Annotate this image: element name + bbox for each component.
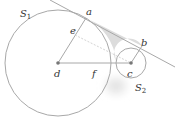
label-s1: S1	[20, 8, 31, 21]
label-s2: S2	[135, 82, 146, 95]
label-f: f	[91, 68, 98, 79]
label-b: b	[141, 37, 147, 48]
tangent-line	[50, 0, 175, 67]
label-c: c	[127, 68, 133, 79]
shadow-smudge	[106, 78, 126, 94]
label-a: a	[86, 6, 92, 17]
point-c	[129, 61, 133, 65]
label-d: d	[54, 68, 60, 79]
point-d	[56, 61, 60, 65]
label-e: e	[70, 25, 76, 36]
tangent-circles-diagram: S1 a e b d f c S2	[0, 0, 176, 125]
